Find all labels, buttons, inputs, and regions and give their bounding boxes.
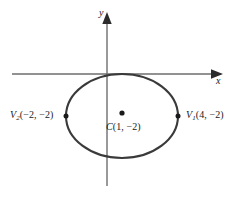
vertex-left-label-coords: (−2, −2) (20, 109, 54, 120)
center-label-coords: (1, −2) (113, 121, 141, 132)
center-label-name: C (106, 121, 113, 132)
center-label: C(1, −2) (106, 122, 141, 132)
vertex-left-label: V2(−2, −2) (10, 110, 53, 122)
coordinate-plane-drawing (0, 0, 235, 199)
vertex-right-point (176, 114, 181, 119)
vertex-right-label: V1(4, −2) (186, 110, 224, 122)
conic-section-figure: V2(−2, −2) V1(4, −2) C(1, −2) y x (0, 0, 235, 199)
vertex-left-point (64, 114, 69, 119)
y-axis-arrowhead (102, 12, 111, 24)
y-axis-label: y (99, 8, 103, 18)
vertex-right-label-coords: (4, −2) (196, 109, 224, 120)
x-axis-label: x (216, 76, 220, 86)
center-point (119, 110, 124, 115)
ellipse-curve (66, 74, 178, 158)
